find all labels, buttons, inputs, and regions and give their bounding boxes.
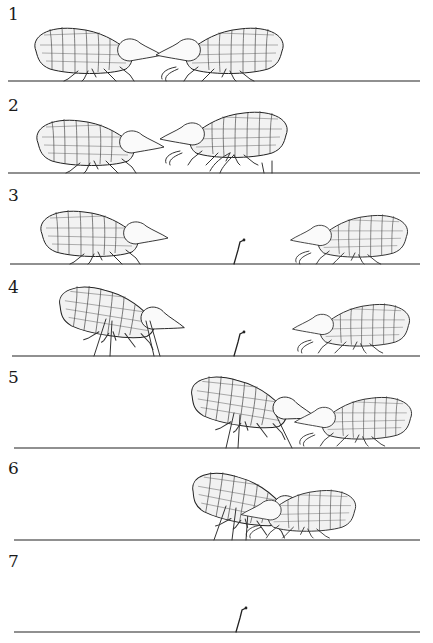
panel-3: 3 — [0, 187, 433, 271]
panel-1-drawing — [0, 6, 433, 90]
panel-3-drawing — [0, 187, 433, 271]
panel-4: 4 — [0, 279, 433, 363]
springtail-icon — [291, 214, 408, 264]
springtail-icon — [187, 372, 320, 443]
panel-5: 5 — [0, 369, 433, 453]
springtail-icon — [37, 119, 164, 173]
springtail-icon — [156, 27, 283, 81]
springtail-icon — [293, 303, 410, 353]
spermatophore-stalk-icon — [236, 607, 247, 632]
springtail-icon — [41, 210, 168, 264]
spermatophore-stalk-icon — [234, 331, 245, 356]
panel-4-drawing — [0, 279, 433, 363]
panel-5-drawing — [0, 369, 433, 453]
panel-7-drawing — [0, 553, 433, 637]
panel-2: 2 — [0, 97, 433, 181]
panel-1: 1 — [0, 6, 433, 90]
springtail-icon — [35, 27, 162, 81]
springtail-icon — [295, 396, 412, 446]
spermatophore-stalk-icon — [234, 239, 245, 264]
panel-7: 7 — [0, 553, 433, 637]
springtail-icon — [55, 282, 188, 353]
panel-2-drawing — [0, 97, 433, 181]
panel-6: 6 — [0, 460, 433, 544]
panel-6-drawing — [0, 460, 433, 544]
